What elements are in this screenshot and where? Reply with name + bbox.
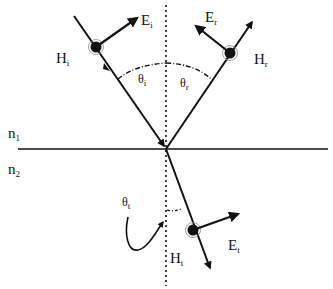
transmitted-e-field-arrow [193, 214, 238, 230]
wave-interface-diagram: Ei Hi Er Hr θi θr n1 n2 θt Ht Et [0, 0, 333, 289]
incident-e-field-arrow [96, 18, 137, 47]
reflected-e-field-arrow [196, 26, 230, 53]
label-h-transmitted: Ht [170, 250, 184, 268]
label-theta-reflected: θr [180, 76, 189, 92]
label-theta-incident: θi [138, 72, 147, 88]
reflected-angle-arc [166, 63, 211, 79]
label-h-incident: Hi [56, 50, 70, 68]
label-theta-transmitted: θt [122, 195, 131, 211]
label-h-reflected: Hr [254, 51, 268, 69]
label-n1: n1 [8, 125, 20, 143]
label-e-transmitted: Et [228, 237, 240, 255]
reflected-ray [166, 22, 252, 149]
label-e-incident: Ei [141, 12, 153, 30]
label-e-reflected: Er [205, 9, 217, 27]
transmitted-angle-arc [167, 209, 181, 211]
incident-ray [74, 16, 164, 146]
label-n2: n2 [8, 161, 20, 179]
transmitted-angle-pointer [126, 217, 163, 250]
